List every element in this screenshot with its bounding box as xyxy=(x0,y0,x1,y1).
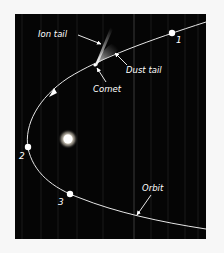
orbit-label: Orbit xyxy=(142,183,164,193)
position-1-label: 1 xyxy=(176,35,182,45)
comet-label: Comet xyxy=(93,84,122,94)
position-1-dot xyxy=(169,30,175,36)
dust-tail-label: Dust tail xyxy=(126,65,162,75)
comet-orbit-diagram: 1 2 3 Ion tail Dust tail Comet Orbit xyxy=(0,0,224,253)
position-2-dot xyxy=(25,144,31,150)
position-2-label: 2 xyxy=(19,151,25,161)
comet-nucleus xyxy=(93,63,96,66)
ion-tail-label: Ion tail xyxy=(38,29,68,39)
position-3-label: 3 xyxy=(58,197,64,207)
sun-core xyxy=(64,135,73,144)
position-3-dot xyxy=(67,191,73,197)
